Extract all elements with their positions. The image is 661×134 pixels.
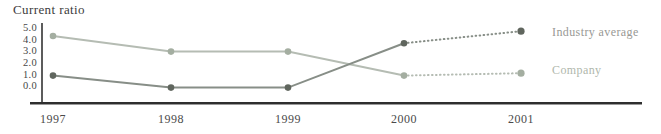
company-point-1997: [50, 33, 57, 40]
x-axis-line: [30, 102, 642, 105]
company-point-1999: [285, 48, 292, 55]
current-ratio-chart: Current ratio 5.04.03.02.01.00.0 1997199…: [0, 0, 661, 134]
x-axis-tick-labels: 19971998199920002001: [0, 112, 661, 128]
company-point-2000: [401, 72, 408, 79]
industry-average-point-1998: [168, 84, 175, 91]
company-projection-line: [404, 73, 521, 75]
industry-average-projection-line: [404, 31, 521, 43]
industry-average-point-1997: [50, 72, 57, 79]
industry-average-point-2000: [401, 40, 408, 47]
company-point-2001: [517, 70, 524, 77]
company-point-1998: [168, 48, 175, 55]
x-tick-2001: 2001: [491, 112, 551, 127]
legend-company: Company: [552, 63, 601, 78]
industry-average-point-2001: [517, 28, 524, 35]
x-tick-1998: 1998: [141, 112, 201, 127]
x-tick-2000: 2000: [374, 112, 434, 127]
industry-average-point-1999: [285, 84, 292, 91]
x-tick-1999: 1999: [258, 112, 318, 127]
legend-industry-average: Industry average: [552, 25, 639, 40]
x-tick-1997: 1997: [23, 112, 83, 127]
company-line: [53, 36, 404, 76]
